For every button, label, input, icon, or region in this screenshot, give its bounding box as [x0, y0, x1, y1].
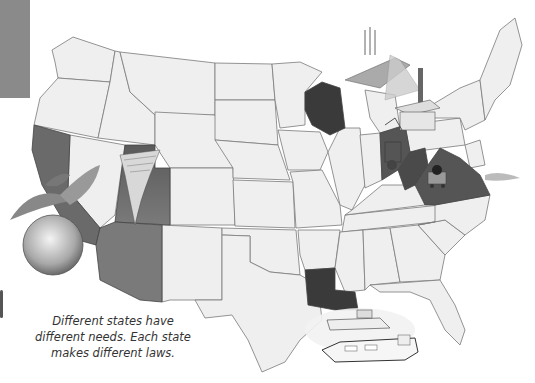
- state-colorado: [170, 168, 235, 225]
- ship-illustration: [305, 308, 418, 362]
- fishing-boat-illustration: [345, 27, 420, 100]
- caption-line: different needs. Each state: [28, 329, 198, 345]
- caption-line: makes different laws.: [28, 345, 198, 361]
- peach-icon: [23, 215, 83, 275]
- caption-line: Different states have: [28, 313, 198, 329]
- state-arkansas: [298, 230, 340, 270]
- coastal-illustration: [485, 173, 520, 181]
- state-arizona: [96, 222, 162, 302]
- fishing-boat-icon: [327, 318, 390, 330]
- state-kansas: [233, 180, 295, 228]
- state-mississippi: [335, 230, 365, 292]
- state-midatlantic: [465, 140, 485, 168]
- caption: Different states have different needs. E…: [28, 313, 198, 361]
- state-newengland: [480, 18, 522, 120]
- state-newmexico: [162, 225, 222, 302]
- state-northdakota: [215, 63, 275, 100]
- state-wisconsin: [305, 82, 345, 135]
- state-iowa: [278, 130, 328, 170]
- state-washington: [52, 37, 115, 82]
- state-southdakota: [215, 100, 278, 145]
